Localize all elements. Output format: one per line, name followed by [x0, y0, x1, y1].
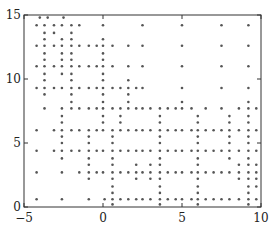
data-point	[61, 149, 64, 152]
data-point	[197, 185, 200, 188]
data-point	[255, 149, 258, 152]
data-point	[70, 65, 73, 68]
data-point	[70, 73, 73, 76]
data-point	[102, 44, 105, 47]
data-point	[228, 198, 231, 201]
data-point	[102, 65, 105, 68]
data-point	[141, 24, 144, 27]
data-point	[95, 44, 98, 47]
data-point	[174, 198, 177, 201]
data-point	[159, 121, 162, 124]
data-point	[127, 87, 130, 90]
data-point	[78, 24, 81, 27]
data-point	[255, 171, 258, 174]
data-point	[127, 65, 130, 68]
data-point	[119, 171, 122, 174]
data-point	[127, 79, 130, 82]
x-tick-label: 10	[253, 211, 268, 225]
data-point	[78, 107, 81, 110]
data-point	[127, 44, 130, 47]
data-point	[212, 129, 215, 132]
data-point	[159, 115, 162, 118]
data-point	[220, 129, 223, 132]
data-point	[61, 59, 64, 62]
data-point	[181, 129, 184, 132]
scatter-chart: −50510 051015	[0, 0, 269, 229]
data-point	[197, 203, 200, 206]
data-point	[53, 65, 56, 68]
data-point	[88, 65, 91, 68]
data-point	[53, 87, 56, 90]
data-point	[159, 149, 162, 152]
data-point	[88, 135, 91, 138]
data-point	[95, 65, 98, 68]
data-point	[35, 198, 38, 201]
x-tick-label: 5	[178, 211, 186, 225]
data-point	[255, 107, 258, 110]
data-point	[159, 192, 162, 195]
data-point	[62, 16, 65, 19]
data-point	[95, 149, 98, 152]
data-point	[181, 149, 184, 152]
data-point	[70, 32, 73, 35]
data-point	[247, 157, 250, 160]
data-point	[247, 192, 250, 195]
data-point	[95, 87, 98, 90]
x-tick-label: 0	[99, 211, 107, 225]
data-point	[181, 65, 184, 68]
data-point	[220, 65, 223, 68]
data-point	[102, 38, 105, 41]
data-point	[181, 87, 184, 90]
data-point	[61, 38, 64, 41]
data-point	[70, 87, 73, 90]
data-point	[181, 101, 184, 104]
data-point	[53, 44, 56, 47]
data-point	[43, 107, 46, 110]
data-point	[127, 93, 130, 96]
data-point	[61, 24, 64, 27]
data-point	[247, 185, 250, 188]
data-point	[149, 164, 152, 167]
data-point	[70, 129, 73, 132]
data-point	[247, 198, 250, 201]
data-point	[119, 149, 122, 152]
data-point	[255, 185, 258, 188]
data-point	[141, 149, 144, 152]
data-point	[102, 115, 105, 118]
data-point	[204, 198, 207, 201]
data-point	[141, 107, 144, 110]
data-point	[70, 79, 73, 82]
data-point	[197, 192, 200, 195]
data-point	[70, 59, 73, 62]
data-point	[159, 157, 162, 160]
data-point	[88, 87, 91, 90]
data-point	[141, 129, 144, 132]
data-point	[247, 65, 250, 68]
data-point	[111, 171, 114, 174]
data-point	[111, 107, 114, 110]
data-point	[70, 24, 73, 27]
data-point	[88, 178, 91, 181]
data-point	[220, 44, 223, 47]
data-point	[212, 171, 215, 174]
data-point	[61, 65, 64, 68]
data-point	[197, 135, 200, 138]
data-point	[181, 107, 184, 110]
data-point	[102, 93, 105, 96]
data-point	[88, 44, 91, 47]
data-point	[159, 129, 162, 132]
data-point	[119, 198, 122, 201]
data-point	[61, 107, 64, 110]
data-point	[228, 142, 231, 145]
data-point	[103, 198, 106, 201]
data-point	[43, 59, 46, 62]
data-point	[167, 129, 170, 132]
data-point	[255, 198, 258, 201]
data-point	[61, 44, 64, 47]
data-point	[102, 59, 105, 62]
data-point	[238, 149, 241, 152]
data-point	[159, 171, 162, 174]
data-point	[159, 164, 162, 167]
data-point	[70, 107, 73, 110]
data-point	[43, 24, 46, 27]
